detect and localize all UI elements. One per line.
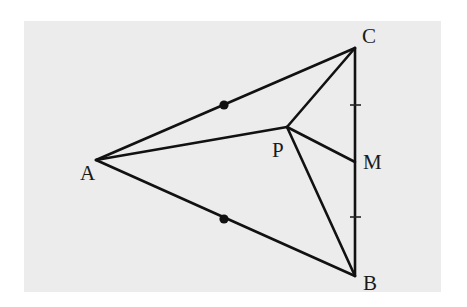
label-A: A — [80, 161, 96, 185]
dot-mark-AB — [219, 214, 228, 223]
geometry-diagram: ABCPM — [0, 0, 467, 307]
label-P: P — [272, 138, 284, 162]
label-M: M — [363, 150, 382, 174]
label-C: C — [362, 24, 376, 48]
label-B: B — [363, 271, 377, 295]
dot-mark-AC — [219, 100, 228, 109]
